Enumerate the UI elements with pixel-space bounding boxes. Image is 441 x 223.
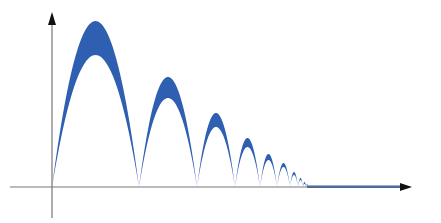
bouncing-arcs-diagram [0, 0, 441, 223]
arc-band [290, 172, 298, 187]
arc-band [235, 138, 260, 187]
arc-band [277, 163, 290, 187]
arc-band [260, 154, 277, 187]
arc-band [303, 182, 306, 187]
y-axis-arrow-icon [48, 12, 56, 25]
arc-band [139, 77, 197, 187]
arc-band [52, 21, 139, 187]
arc-bands [52, 21, 308, 187]
arc-band [298, 178, 303, 187]
x-axis-arrow-icon [400, 183, 412, 191]
arc-band [197, 113, 235, 187]
plot-area [0, 0, 441, 223]
